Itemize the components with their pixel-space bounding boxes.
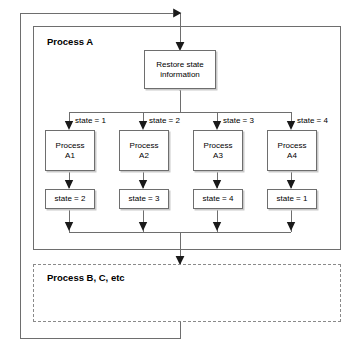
branch-label-state-2: state = 2 [149,116,180,125]
node-process-a3-line2: A3 [213,151,223,161]
branch-label-state-3: state = 3 [223,116,254,125]
node-process-a3: Process A3 [193,130,243,171]
node-assign-state-4: state = 4 [193,189,243,209]
node-process-a4-line2: A4 [287,151,297,161]
branch-label-state-4: state = 4 [297,116,328,125]
node-restore-state-line1: Restore state [156,60,204,70]
flowchart-diagram: Process A Process B, C, etc Restore stat… [0,0,361,352]
container-process-bc-title: Process B, C, etc [47,272,125,283]
node-process-a1: Process A1 [45,130,95,171]
node-assign-state-3-text: state = 3 [129,194,160,204]
node-assign-state-3: state = 3 [119,189,169,209]
node-process-a4: Process A4 [267,130,317,171]
node-assign-state-2: state = 2 [45,189,95,209]
node-assign-state-1-text: state = 1 [277,194,308,204]
node-process-a2-line2: A2 [139,151,149,161]
node-assign-state-4-text: state = 4 [203,194,234,204]
node-process-a1-line1: Process [56,141,85,151]
node-assign-state-2-text: state = 2 [55,194,86,204]
branch-label-state-1: state = 1 [75,116,106,125]
node-process-a2-line1: Process [130,141,159,151]
node-restore-state: Restore state information [144,50,216,89]
node-process-a2: Process A2 [119,130,169,171]
container-process-a-title: Process A [47,36,93,47]
node-process-a4-line1: Process [278,141,307,151]
node-process-a3-line1: Process [204,141,233,151]
node-restore-state-line2: information [160,70,200,80]
node-process-a1-line2: A1 [65,151,75,161]
node-assign-state-1: state = 1 [267,189,317,209]
